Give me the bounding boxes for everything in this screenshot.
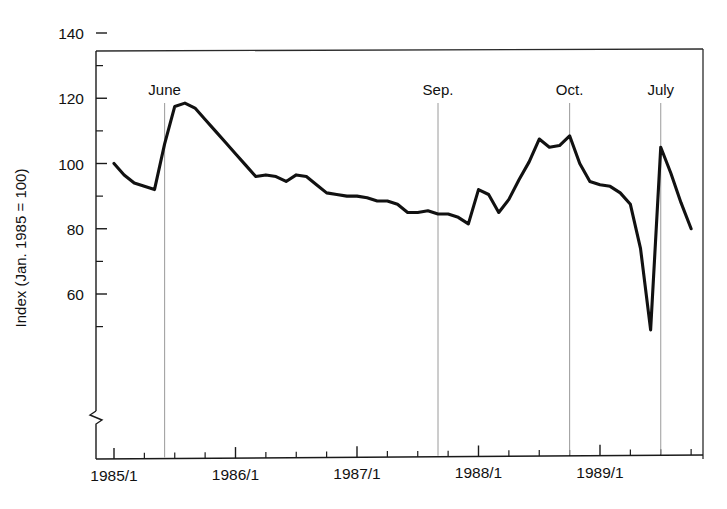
- x-tick-label-1988: 1988/1: [455, 464, 502, 481]
- index-line-chart: 6080100120140 1985/11986/11987/11988/119…: [0, 0, 727, 509]
- y-tick-label-80: 80: [67, 221, 85, 238]
- x-tick-label-1985: 1985/1: [90, 467, 137, 484]
- chart-background: [0, 0, 727, 509]
- annotation-label-july: July: [647, 81, 674, 98]
- x-tick-label-1989: 1989/1: [576, 464, 623, 481]
- y-tick-label-100: 100: [58, 156, 84, 173]
- annotation-label-sep: Sep.: [423, 81, 454, 98]
- chart-figure: 6080100120140 1985/11986/11987/11988/119…: [0, 0, 727, 509]
- x-tick-label-1987: 1987/1: [333, 465, 380, 482]
- annotation-label-june: June: [148, 81, 181, 98]
- annotation-label-oct: Oct.: [556, 81, 584, 98]
- y-tick-label-140: 140: [58, 25, 84, 42]
- y-tick-label-120: 120: [58, 90, 84, 107]
- y-axis-title: Index (Jan. 1985 = 100): [12, 169, 29, 328]
- y-tick-label-60: 60: [67, 286, 85, 303]
- x-tick-label-1986: 1986/1: [212, 466, 259, 483]
